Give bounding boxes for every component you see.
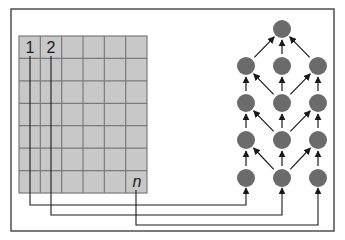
graph-edge-arrow (290, 148, 310, 169)
graph-edge-arrow (290, 74, 310, 95)
grid-label: 1 (26, 39, 35, 56)
graph-node (273, 169, 291, 187)
grid-label: 2 (47, 39, 56, 56)
graph-node (309, 169, 327, 187)
graph-node (309, 57, 327, 75)
graph-node (237, 131, 255, 149)
graph-node (273, 20, 291, 38)
graph-node (309, 94, 327, 112)
graph-node (237, 57, 255, 75)
connector-line (136, 188, 318, 225)
graph-node (273, 57, 291, 75)
graph-node (237, 94, 255, 112)
graph-edge-arrow (254, 148, 274, 169)
graph-node (309, 131, 327, 149)
graph-edge-arrow (254, 37, 274, 58)
graph-edge-arrow (290, 37, 310, 58)
network-diagram: 12n (0, 0, 345, 240)
graph-node (237, 169, 255, 187)
graph-edge-arrow (254, 111, 274, 132)
graph-node (273, 94, 291, 112)
grid-label: n (133, 173, 142, 190)
input-grid (19, 36, 147, 193)
graph-edge-arrow (254, 74, 274, 95)
graph-edge-arrow (290, 111, 310, 132)
graph-node (273, 131, 291, 149)
